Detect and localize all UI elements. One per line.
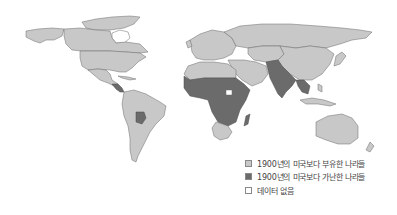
region-alaska [26,28,64,43]
region-mexico [88,69,118,86]
region-new-zealand [366,142,374,152]
legend-label-no-data: 데이터 없음 [257,185,293,196]
region-russia [224,24,372,48]
region-philippines [318,84,322,92]
region-southeast-asia [296,80,310,94]
map-legend: 1900년의 미국보다 부유한 나라들 1900년의 미국보다 가난한 나라들 … [245,157,365,198]
region-south-america [122,90,166,162]
region-canada [64,28,148,53]
region-usa [80,51,146,72]
legend-label-poorer: 1900년의 미국보다 가난한 나라들 [257,171,365,182]
region-south-sudan [226,90,232,95]
legend-item-poorer: 1900년의 미국보다 가난한 나라들 [245,171,365,183]
region-caribbean [118,76,136,80]
legend-item-richer: 1900년의 미국보다 부유한 나라들 [245,157,365,169]
region-central-america [112,84,124,92]
region-madagascar [244,114,250,126]
region-arctic-islands [82,16,140,30]
region-sub-saharan-africa [184,76,250,126]
region-japan [334,52,346,66]
swatch-poorer-icon [245,173,252,180]
legend-label-richer: 1900년의 미국보다 부유한 나라들 [257,158,365,169]
swatch-no-data-icon [245,187,252,194]
region-australia [316,114,358,144]
legend-item-no-data: 데이터 없음 [245,184,365,196]
region-indonesia [300,98,336,106]
region-north-africa [184,62,236,80]
swatch-richer-icon [245,160,252,167]
